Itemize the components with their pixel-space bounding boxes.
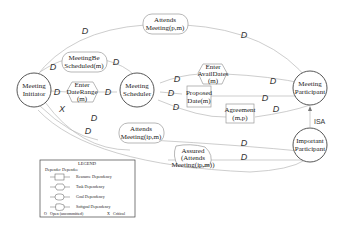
svg-text:ISA: ISA [314, 118, 326, 125]
svg-text:Participant: Participant [295, 88, 325, 96]
svg-text:Dependee: Dependee [62, 167, 78, 172]
svg-text:Attends: Attends [130, 125, 152, 133]
svg-text:Task Dependency: Task Dependency [76, 184, 105, 189]
svg-text:Critical: Critical [113, 211, 126, 216]
svg-text:D: D [241, 152, 248, 162]
actor-important-participant: Important Participant [293, 128, 327, 162]
svg-text:Meeting: Meeting [22, 82, 46, 90]
svg-text:Goal Dependency: Goal Dependency [76, 194, 105, 199]
svg-text:(m): (m) [77, 95, 88, 103]
goal-meeting-be-scheduled: MeetingBe Scheduled(m) [62, 52, 107, 72]
task-enter-date-range: Enter DateRange (m) [66, 81, 98, 103]
svg-text:Depender: Depender [45, 167, 61, 172]
svg-text:D: D [91, 113, 98, 123]
svg-text:Open (uncommitted): Open (uncommitted) [50, 211, 84, 216]
actor-meeting-participant: Meeting Participant [293, 71, 327, 105]
task-enter-avail-dates: Enter AvailDates (m) [198, 63, 229, 85]
svg-text:D: D [82, 26, 89, 36]
legend: LEGEND Depender Dependee Resource Depend… [40, 160, 135, 217]
resource-proposed-date: Proposed Date(m) [186, 86, 213, 107]
svg-text:Important: Important [296, 137, 324, 145]
svg-text:D: D [262, 93, 269, 103]
svg-text:Meeting: Meeting [125, 82, 149, 90]
actor-meeting-initiator: Meeting Initiator [17, 73, 51, 107]
svg-text:Date(m): Date(m) [187, 97, 211, 105]
svg-text:D: D [273, 104, 280, 114]
svg-text:Scheduler: Scheduler [123, 90, 152, 98]
svg-text:D: D [105, 87, 112, 97]
softgoal-assured: Assured (Attends Meeting(ip,m)) [172, 145, 216, 169]
svg-text:D: D [173, 102, 180, 112]
svg-text:Attends: Attends [154, 16, 176, 24]
svg-text:D: D [54, 87, 61, 97]
svg-text:Meeting(ip,m): Meeting(ip,m) [121, 133, 162, 141]
svg-text:LEGEND: LEGEND [78, 161, 97, 166]
svg-text:X: X [107, 211, 110, 216]
svg-text:D: D [241, 138, 248, 148]
svg-text:D: D [241, 30, 248, 40]
svg-text:X: X [58, 104, 66, 114]
svg-text:O: O [44, 211, 47, 216]
actor-meeting-scheduler: Meeting Scheduler [120, 73, 154, 107]
svg-text:Scheduled(m): Scheduled(m) [64, 62, 104, 70]
svg-text:Meeting: Meeting [298, 80, 322, 88]
svg-text:Softgoal Dependency: Softgoal Dependency [76, 204, 111, 209]
svg-text:Proposed: Proposed [186, 89, 213, 97]
svg-text:D: D [50, 62, 57, 72]
svg-text:D: D [270, 76, 277, 86]
strategic-dependency-diagram: D D D D D D D D D D D D X D D D D ISA At… [0, 0, 341, 237]
goal-attends-meeting-ipm: Attends Meeting(ip,m) [119, 123, 164, 143]
resource-agreement: Agreement (m,p) [224, 104, 255, 123]
svg-text:Meeting(ip,m)): Meeting(ip,m)) [172, 161, 216, 169]
goal-attends-meeting-pm: Attends Meeting(p,m) [143, 14, 188, 34]
svg-text:Meeting(p,m): Meeting(p,m) [146, 24, 185, 32]
svg-text:Resource Dependency: Resource Dependency [76, 174, 112, 179]
svg-text:MeetingBe: MeetingBe [68, 54, 99, 62]
svg-text:(m,p): (m,p) [232, 114, 248, 122]
svg-text:D: D [168, 88, 175, 98]
svg-text:Agreement: Agreement [224, 106, 255, 114]
svg-text:D: D [113, 57, 120, 67]
svg-text:Participant: Participant [295, 145, 325, 153]
svg-text:D: D [85, 126, 92, 136]
svg-text:(m): (m) [208, 77, 219, 85]
svg-text:Initiator: Initiator [23, 90, 46, 98]
svg-text:D: D [174, 74, 181, 84]
